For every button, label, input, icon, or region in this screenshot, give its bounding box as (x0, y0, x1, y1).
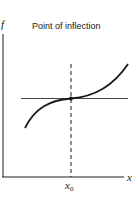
inflection-diagram: Point of inflection f x x0 (0, 0, 140, 197)
x0-label: x0 (64, 179, 74, 193)
x0-label-sub: 0 (70, 185, 74, 193)
x-axis-label: x (126, 171, 132, 183)
inflection-point (69, 97, 73, 101)
diagram-title: Point of inflection (32, 21, 101, 31)
function-curve (25, 64, 128, 128)
y-axis-label: f (1, 18, 6, 30)
